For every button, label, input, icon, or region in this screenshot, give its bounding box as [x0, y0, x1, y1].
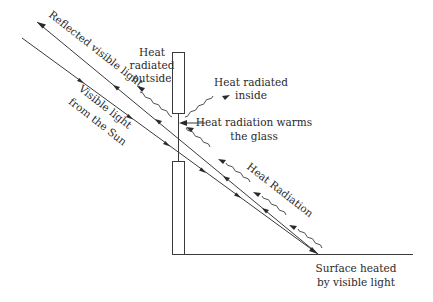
arrowhead-icon [155, 119, 162, 125]
label-heat-in-2: inside [235, 89, 267, 101]
greenhouse-diagram: Reflected visible light Visible light fr… [0, 0, 433, 302]
heat-to-glass-wave [186, 127, 210, 147]
wall-lower [173, 162, 185, 255]
label-surface-2: by visible light [317, 276, 396, 288]
label-surface-1: Surface heated [316, 262, 397, 274]
arrowhead-icon [289, 225, 297, 230]
arrowhead-icon [179, 120, 187, 126]
label-reflected: Reflected visible light [47, 8, 146, 89]
arrowhead-icon [37, 22, 46, 29]
label-warms-2: the glass [230, 130, 278, 142]
arrowhead-icon [253, 192, 261, 197]
label-warms-1: Heat radiation warms [196, 116, 312, 128]
arrowhead-icon [222, 95, 230, 100]
heat-in-wave [185, 95, 230, 117]
label-heat-out-2: radiated [130, 59, 175, 71]
label-heat-out-1: Heat [139, 46, 166, 58]
label-heat-in-1: Heat radiated [214, 76, 288, 88]
label-heat-out-3: outside [133, 72, 172, 84]
heat-out-wave [137, 86, 172, 117]
arrowhead-icon [218, 159, 226, 164]
